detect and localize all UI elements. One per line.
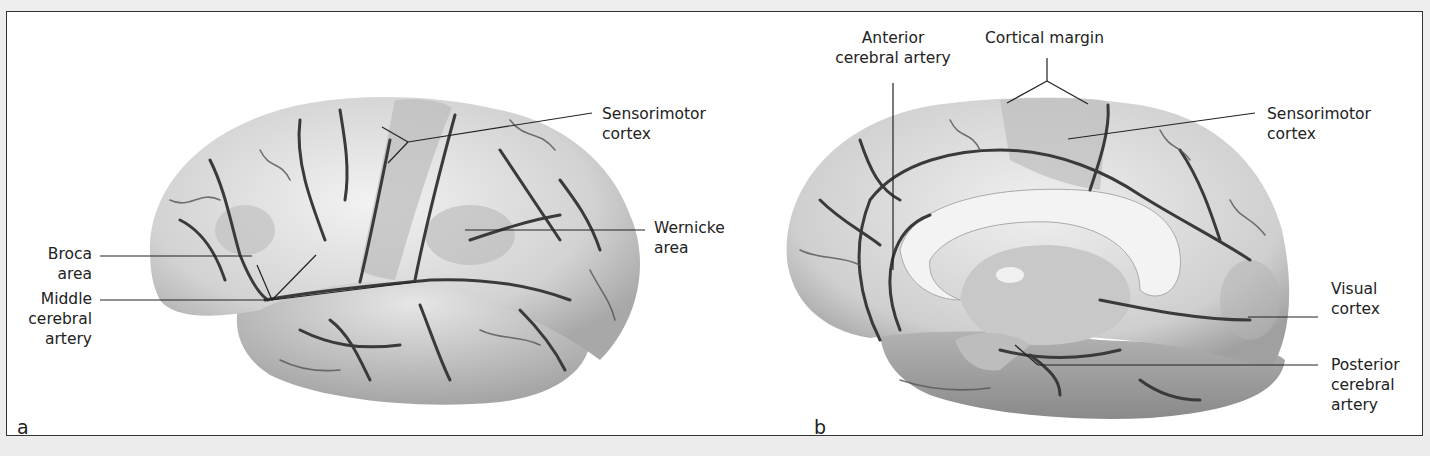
label-line: cortex (1331, 299, 1380, 319)
label-line: cerebral (1331, 375, 1400, 395)
panel-letter-a: a (17, 416, 29, 438)
label-anterior-cerebral-artery: Anterior cerebral artery (828, 28, 958, 68)
label-line: Cortical margin (985, 28, 1104, 48)
lateral-brain (150, 97, 640, 405)
label-wernicke-area: Wernicke area (654, 218, 725, 258)
label-line: area (654, 238, 725, 258)
label-middle-cerebral-artery: Middle cerebral artery (10, 289, 92, 349)
label-line: Sensorimotor (602, 104, 706, 124)
label-line: cortex (1267, 124, 1371, 144)
label-line: Middle (10, 289, 92, 309)
medial-brain (787, 98, 1289, 419)
label-line: Wernicke (654, 218, 725, 238)
panel-letter-b: b (814, 416, 826, 438)
label-line: area (30, 264, 92, 284)
label-line: cerebral artery (828, 48, 958, 68)
label-line: Anterior (828, 28, 958, 48)
label-sensorimotor-cortex-a: Sensorimotor cortex (602, 104, 706, 144)
label-line: Sensorimotor (1267, 104, 1371, 124)
label-line: artery (1331, 395, 1400, 415)
label-sensorimotor-cortex-b: Sensorimotor cortex (1267, 104, 1371, 144)
label-line: Broca (30, 244, 92, 264)
label-line: Visual (1331, 279, 1380, 299)
label-broca-area: Broca area (30, 244, 92, 284)
label-line: artery (10, 329, 92, 349)
label-line: Posterior (1331, 355, 1400, 375)
label-line: cerebral (10, 309, 92, 329)
label-visual-cortex: Visual cortex (1331, 279, 1380, 319)
label-posterior-cerebral-artery: Posterior cerebral artery (1331, 355, 1400, 415)
label-line: cortex (602, 124, 706, 144)
label-cortical-margin: Cortical margin (985, 28, 1104, 48)
